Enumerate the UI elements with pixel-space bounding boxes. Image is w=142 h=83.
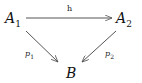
label-p1-sub: 1 — [30, 53, 34, 60]
label-p2: p2 — [105, 50, 114, 60]
node-a1: A1 — [5, 11, 21, 29]
node-a1-sub: 1 — [15, 19, 21, 29]
label-p1: p1 — [25, 50, 34, 60]
label-h: h — [67, 5, 72, 13]
node-b: B — [66, 66, 76, 80]
node-a2: A2 — [116, 11, 132, 29]
node-b-base: B — [66, 65, 76, 81]
label-h-text: h — [67, 4, 72, 13]
node-a2-base: A — [116, 10, 126, 26]
label-p2-sub: 2 — [110, 53, 114, 60]
node-a2-sub: 2 — [126, 19, 132, 29]
node-a1-base: A — [5, 10, 15, 26]
